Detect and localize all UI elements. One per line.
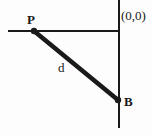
segment-p-to-b bbox=[34, 31, 118, 100]
point-p-marker bbox=[31, 28, 37, 34]
segment-d-label: d bbox=[58, 61, 65, 74]
geometry-figure: P B d (0,0) bbox=[0, 0, 152, 136]
point-p-label: P bbox=[27, 13, 35, 26]
point-b-label: B bbox=[124, 95, 133, 108]
point-b-marker bbox=[115, 97, 121, 103]
origin-label: (0,0) bbox=[121, 9, 146, 22]
